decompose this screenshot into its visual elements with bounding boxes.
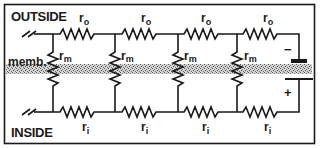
inside-label: INSIDE bbox=[11, 125, 53, 140]
battery-positive-sign: + bbox=[284, 85, 292, 100]
inside-wire bbox=[22, 79, 299, 117]
svg-text:ro: ro bbox=[263, 11, 274, 27]
cable-circuit-diagram: − + OUTSIDE INSIDE memb. ro ro ro ro rm … bbox=[0, 0, 321, 148]
membrane-resistor-labels: rm rm rm rm bbox=[59, 49, 257, 64]
svg-text:rm: rm bbox=[184, 49, 197, 64]
svg-text:rm: rm bbox=[244, 49, 257, 64]
svg-text:ri: ri bbox=[202, 120, 209, 136]
inside-resistor-labels: ri ri ri ri bbox=[82, 120, 271, 136]
svg-text:ro: ro bbox=[201, 11, 212, 27]
svg-text:ro: ro bbox=[141, 11, 152, 27]
svg-text:ro: ro bbox=[79, 11, 90, 27]
membrane-label: memb. bbox=[8, 55, 47, 69]
svg-text:ri: ri bbox=[141, 120, 148, 136]
svg-text:ri: ri bbox=[264, 120, 271, 136]
svg-text:rm: rm bbox=[121, 49, 134, 64]
outside-label: OUTSIDE bbox=[11, 9, 67, 24]
battery-negative-sign: − bbox=[284, 42, 292, 57]
outside-resistor-labels: ro ro ro ro bbox=[79, 11, 274, 27]
svg-text:rm: rm bbox=[59, 49, 72, 64]
svg-text:ri: ri bbox=[82, 120, 89, 136]
